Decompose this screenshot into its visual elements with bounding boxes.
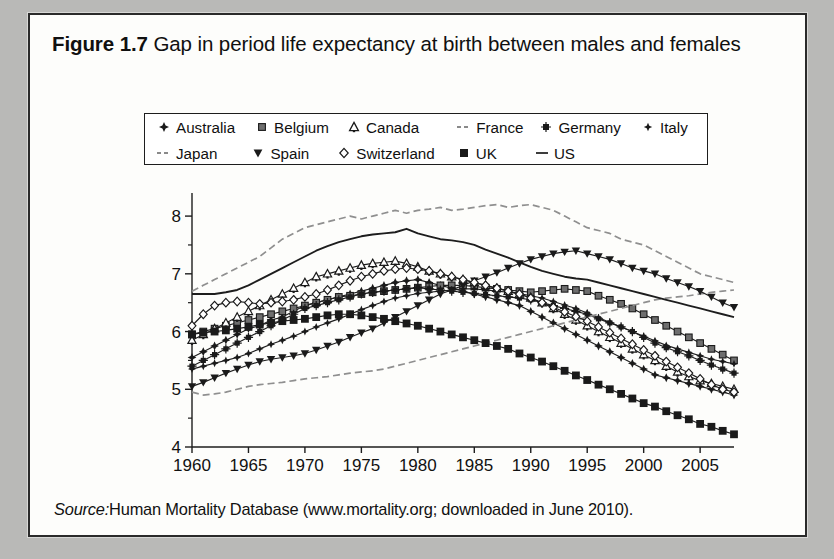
y-axis-tick-labels: 45678 xyxy=(172,207,181,457)
figure-number: Figure 1.7 xyxy=(52,32,148,55)
four-point-star-icon xyxy=(153,119,175,135)
legend-item-switzerland: Switzerland xyxy=(333,145,435,162)
chart-series-layer xyxy=(187,205,738,439)
legend-label: Japan xyxy=(175,145,217,162)
legend-row-2: JapanSpainSwitzerlandUKUS xyxy=(145,140,707,166)
solid-line-icon xyxy=(534,145,550,161)
legend-label: France xyxy=(475,119,523,136)
x-axis-tick-labels: 1960196519701975198019851990199520002005 xyxy=(173,456,719,475)
source-note: Source:Human Mortality Database (www.mor… xyxy=(54,500,633,519)
x-tick-label: 1975 xyxy=(342,456,380,475)
solid-line-icon xyxy=(531,145,553,161)
legend-label: Canada xyxy=(365,119,419,136)
legend-label: Australia xyxy=(175,119,235,136)
legend-item-canada: Canada xyxy=(343,119,419,136)
chart-legend: AustraliaBelgiumCanadaFranceGermanyItaly… xyxy=(144,113,708,165)
asterisk-square-icon xyxy=(538,119,554,135)
legend-label: Belgium xyxy=(273,119,329,136)
small-star-icon xyxy=(637,119,659,135)
legend-label: Italy xyxy=(659,119,688,136)
y-tick-label: 7 xyxy=(172,265,181,284)
legend-item-us: US xyxy=(531,145,575,162)
source-label: Source: xyxy=(54,500,109,518)
dashed-line-icon xyxy=(453,119,475,135)
legend-label: US xyxy=(553,145,575,162)
filled-square-icon xyxy=(254,119,270,135)
figure-card: Figure 1.7 Gap in period life expectancy… xyxy=(28,13,807,537)
bold-filled-square-icon xyxy=(456,145,472,161)
legend-label: Switzerland xyxy=(355,145,435,162)
four-point-star-icon xyxy=(156,119,172,135)
club-triangle-icon xyxy=(346,119,362,135)
x-tick-label: 1980 xyxy=(399,456,437,475)
legend-item-germany: Germany xyxy=(535,119,620,136)
y-tick-label: 8 xyxy=(172,207,181,226)
legend-item-uk: UK xyxy=(453,145,497,162)
x-tick-label: 2005 xyxy=(681,456,719,475)
legend-item-italy: Italy xyxy=(637,119,688,136)
filled-square-icon xyxy=(251,119,273,135)
legend-item-belgium: Belgium xyxy=(251,119,329,136)
legend-row-1: AustraliaBelgiumCanadaFranceGermanyItaly xyxy=(145,114,707,140)
legend-item-japan: Japan xyxy=(153,145,217,162)
club-triangle-icon xyxy=(343,119,365,135)
chart-plot-area: 1960196519701975198019851990199520002005… xyxy=(148,183,748,483)
dashed-line-icon xyxy=(153,145,175,161)
dashed-line-icon xyxy=(456,119,472,135)
y-tick-label: 4 xyxy=(172,438,181,457)
x-tick-label: 2000 xyxy=(625,456,663,475)
legend-item-france: France xyxy=(453,119,523,136)
x-tick-label: 1970 xyxy=(286,456,324,475)
down-triangle-icon xyxy=(250,145,266,161)
dashed-line-icon xyxy=(156,145,172,161)
y-tick-label: 6 xyxy=(172,323,181,342)
asterisk-square-icon xyxy=(535,119,557,135)
x-tick-label: 1965 xyxy=(230,456,268,475)
bold-filled-square-icon xyxy=(453,145,475,161)
small-star-icon xyxy=(640,119,656,135)
open-diamond-icon xyxy=(336,145,352,161)
legend-label: Germany xyxy=(557,119,620,136)
open-diamond-icon xyxy=(333,145,355,161)
x-tick-label: 1985 xyxy=(455,456,493,475)
x-tick-label: 1995 xyxy=(568,456,606,475)
x-tick-label: 1960 xyxy=(173,456,211,475)
legend-label: Spain xyxy=(269,145,309,162)
legend-label: UK xyxy=(475,145,497,162)
source-text: Human Mortality Database (www.mortality.… xyxy=(109,500,633,518)
figure-title-text: Gap in period life expectancy at birth b… xyxy=(153,32,740,55)
legend-item-spain: Spain xyxy=(247,145,309,162)
figure-title: Figure 1.7 Gap in period life expectancy… xyxy=(52,31,781,57)
life-expectancy-gap-line-chart: 1960196519701975198019851990199520002005… xyxy=(148,183,748,483)
y-tick-label: 5 xyxy=(172,380,181,399)
legend-item-australia: Australia xyxy=(153,119,235,136)
x-tick-label: 1990 xyxy=(512,456,550,475)
down-triangle-icon xyxy=(247,145,269,161)
